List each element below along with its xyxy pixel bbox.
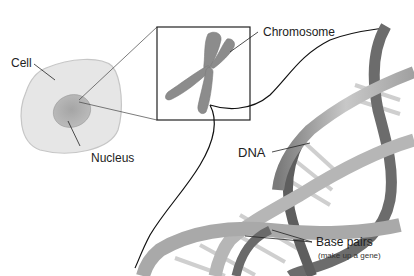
dna-label: DNA	[238, 146, 265, 159]
nucleus-label: Nucleus	[91, 152, 134, 164]
base-pairs-note: (make up a gene)	[318, 252, 381, 260]
chromosome-label: Chromosome	[263, 26, 335, 38]
base-pairs-label: Base pairs	[316, 236, 373, 248]
cell-label: Cell	[11, 57, 32, 69]
